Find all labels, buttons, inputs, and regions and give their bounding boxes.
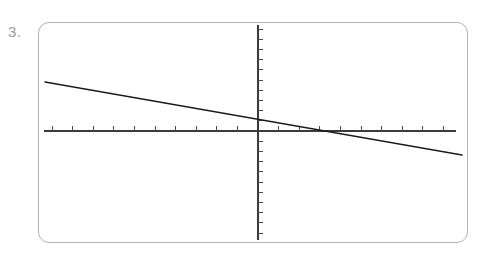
screenshot-canvas: 3. — [0, 0, 490, 258]
graphing-calculator-screen — [38, 22, 468, 243]
problem-number-label: 3. — [8, 23, 22, 41]
